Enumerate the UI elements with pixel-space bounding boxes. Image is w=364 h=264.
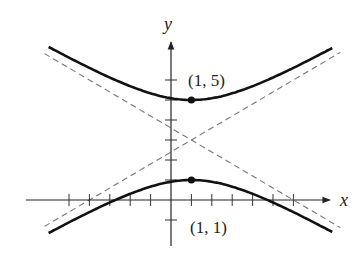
lower-vertex-label: (1, 1)	[190, 218, 227, 237]
tick-marks	[69, 80, 293, 220]
vertex-point	[188, 96, 195, 103]
vertex-point	[188, 176, 195, 183]
hyperbola-figure: x y (1, 5) (1, 1)	[0, 0, 364, 264]
upper-vertex-label: (1, 5)	[188, 71, 225, 90]
y-axis-label: y	[162, 14, 172, 34]
x-axis-label: x	[339, 190, 348, 210]
